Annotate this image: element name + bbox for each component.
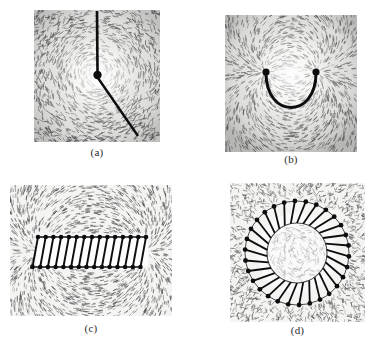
panel-a-straight-wire	[34, 10, 160, 142]
panel-a-field-pattern	[34, 10, 160, 142]
loop-end-dot-left	[262, 68, 269, 75]
panel-a-photo	[34, 10, 160, 142]
panel-d-caption: (d)	[230, 324, 365, 336]
panel-c-field-pattern	[10, 185, 172, 316]
panel-c-caption: (c)	[10, 322, 172, 334]
panel-d-toroid	[230, 183, 365, 322]
panel-b-caption: (b)	[225, 153, 357, 165]
wire-upper-segment	[97, 11, 98, 72]
panel-d-field-pattern	[230, 183, 365, 322]
figure-root: (a)	[0, 0, 370, 346]
panel-b-photo	[225, 15, 357, 152]
panel-a-caption: (a)	[34, 146, 160, 158]
toroid-turn	[284, 203, 285, 226]
panel-b-current-loop	[225, 15, 357, 152]
wire-cross-section-dot	[93, 71, 101, 79]
toroid-inner-clearing	[257, 213, 337, 293]
loop-end-dot-right	[312, 68, 319, 75]
panel-b-field-pattern	[225, 15, 357, 152]
panel-c-photo	[10, 185, 172, 316]
panel-c-solenoid	[10, 185, 172, 316]
panel-d-photo	[230, 183, 365, 322]
toroid-turn	[309, 280, 310, 303]
